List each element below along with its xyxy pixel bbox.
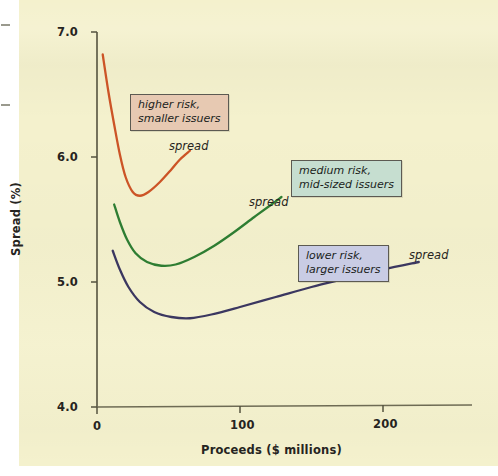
y-tick-label-7: 7.0	[57, 25, 78, 39]
annotation-higher-risk-line1: higher risk,	[138, 98, 221, 112]
y-tick-label-5: 5.0	[57, 275, 78, 289]
y-axis-ticks	[91, 32, 97, 407]
y-tick-label-4: 4.0	[57, 400, 78, 414]
y-axis-title: Spread (%)	[9, 182, 23, 256]
series-label-higher-risk: spread	[169, 139, 208, 153]
annotation-lower-risk-line2: larger issuers	[306, 263, 381, 277]
x-tick-label-100: 100	[230, 418, 255, 432]
series-label-medium-risk: spread	[249, 195, 288, 209]
annotation-lower-risk-line1: lower risk,	[306, 249, 381, 263]
annotation-medium-risk-line2: mid-sized issuers	[299, 178, 394, 192]
axis-lines	[97, 32, 472, 407]
annotation-medium-risk: medium risk, mid-sized issuers	[291, 160, 402, 197]
annotation-lower-risk: lower risk, larger issuers	[298, 245, 389, 282]
annotation-higher-risk: higher risk, smaller issuers	[130, 94, 229, 131]
x-tick-label-0: 0	[93, 419, 101, 433]
y-tick-label-6: 6.0	[57, 150, 78, 164]
annotation-higher-risk-line2: smaller issuers	[138, 112, 221, 126]
chart-figure: 7.0 6.0 5.0 4.0 0 100 200 Spread (%) Pro…	[0, 0, 498, 476]
x-tick-label-200: 200	[373, 417, 398, 431]
x-axis-title: Proceeds ($ millions)	[201, 443, 342, 457]
x-axis-line	[97, 405, 472, 407]
annotation-medium-risk-line1: medium risk,	[299, 164, 394, 178]
series-label-lower-risk: spread	[409, 248, 448, 262]
